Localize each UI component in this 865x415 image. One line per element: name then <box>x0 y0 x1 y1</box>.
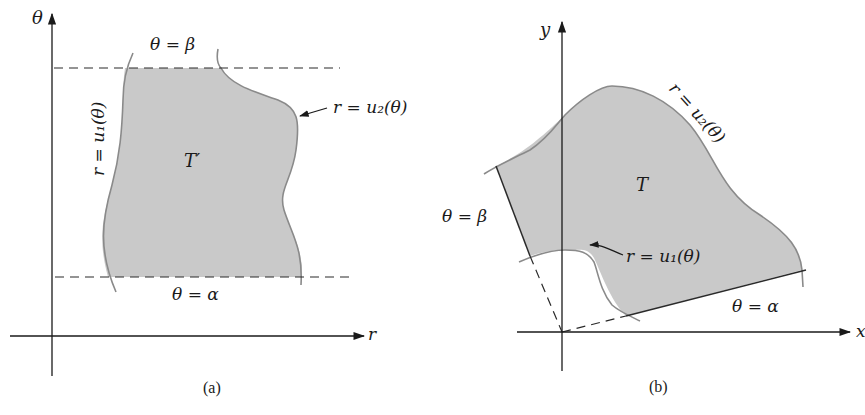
region-label-t-prime: T′ <box>184 150 200 171</box>
theta-alpha-label-a: θ = α <box>172 284 219 304</box>
region-t-prime <box>102 68 302 277</box>
x-axis-label: x <box>856 321 865 341</box>
u2-label-a: r = u₂(θ) <box>333 97 407 117</box>
u1-label-a: r = u₁(θ) <box>88 102 108 176</box>
r-axis-label: r <box>368 324 377 344</box>
u1-label-b: r = u₁(θ) <box>626 246 700 266</box>
caption-a: (a) <box>203 379 221 397</box>
y-axis-label: y <box>539 19 551 40</box>
panel-a: θ r θ = β θ = α r = u₂(θ) r = u₁(θ) T′ (… <box>10 7 407 397</box>
u2-pointer-arrow <box>300 108 327 116</box>
polar-region-figure: θ r θ = β θ = α r = u₂(θ) r = u₁(θ) T′ (… <box>0 0 865 415</box>
theta-beta-label-b: θ = β <box>442 206 487 226</box>
theta-axis-label: θ <box>32 7 43 28</box>
caption-b: (b) <box>649 378 668 396</box>
panel-b: y x θ = β θ = α r = u₁(θ) r = u₂(θ) T (b… <box>442 19 865 396</box>
region-t <box>496 86 802 316</box>
theta-beta-dashed-ray <box>530 256 562 332</box>
theta-alpha-label-b: θ = α <box>732 296 779 316</box>
region-label-t: T <box>636 174 650 195</box>
theta-beta-label-a: θ = β <box>150 34 195 54</box>
theta-alpha-dashed-ray <box>562 316 626 332</box>
